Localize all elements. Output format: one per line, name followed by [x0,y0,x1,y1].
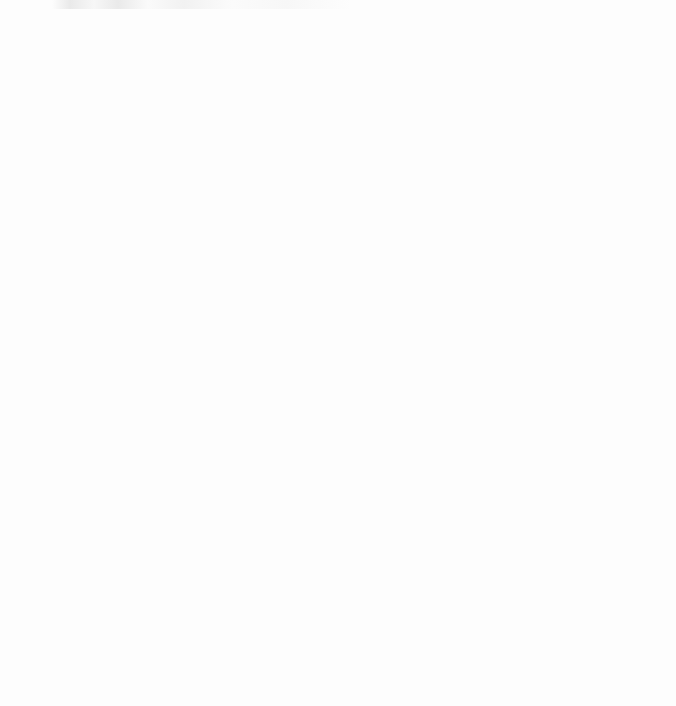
figure-root [0,0,676,706]
vector-diagram-canvas [0,0,676,706]
